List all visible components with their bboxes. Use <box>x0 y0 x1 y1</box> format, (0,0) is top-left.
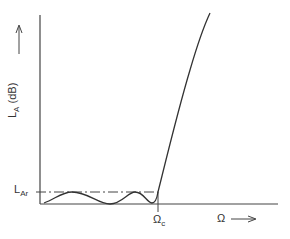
cutoff-label-sub: c <box>161 219 165 228</box>
y-axis-label: LA (dB) <box>6 83 21 118</box>
up-arrow-icon <box>16 25 22 54</box>
cutoff-label: Ωc <box>153 213 165 228</box>
y-label-unit: (dB) <box>6 83 18 107</box>
right-arrow-icon <box>231 216 256 222</box>
y-label-sub: A <box>12 107 21 112</box>
passband-ripple-curve <box>44 192 158 204</box>
cutoff-label-main: Ω <box>153 213 161 225</box>
ripple-level-label: LAr <box>14 183 28 198</box>
y-label-main: L <box>6 112 18 118</box>
x-axis-label: Ω <box>217 212 225 224</box>
stopband-curve <box>158 13 210 192</box>
ripple-label-sub: Ar <box>20 189 28 198</box>
diagram-graphics <box>0 0 290 239</box>
attenuation-diagram: LA (dB) LAr Ωc Ω <box>0 0 290 239</box>
